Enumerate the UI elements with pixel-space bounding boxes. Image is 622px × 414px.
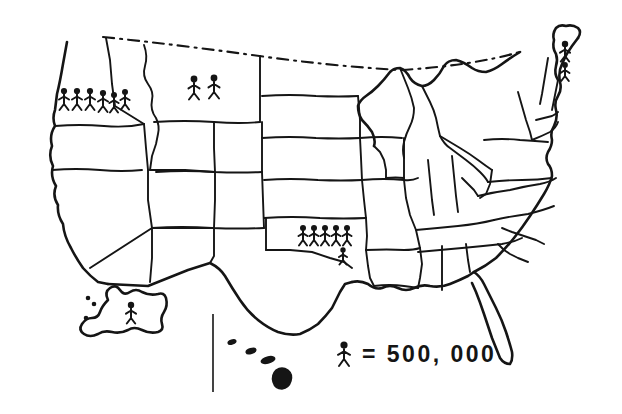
border-wv-oh <box>462 178 478 196</box>
hawaii-island-kauai <box>228 339 237 345</box>
legend-stick-figure <box>338 341 350 366</box>
hawaii-island-bigisland <box>272 368 291 389</box>
aleutian-dot-3 <box>84 316 87 319</box>
border-mo-ar <box>366 248 420 250</box>
border-ok-ar <box>366 218 367 250</box>
border-wa-or <box>55 124 144 127</box>
stick-figure <box>85 88 95 110</box>
border-ma-ct <box>536 112 558 120</box>
legend-value-text: = 500, 000 <box>362 341 496 368</box>
border-ne-ks <box>264 179 362 181</box>
border-ks-mo <box>362 180 366 218</box>
border-tn-south <box>418 238 522 252</box>
border-ks-ok <box>264 217 366 219</box>
figure-group-montana <box>189 75 220 100</box>
border-or-ca <box>52 169 142 171</box>
stick-figure <box>120 89 129 110</box>
border-midwest-south <box>416 220 494 230</box>
border-sd-ne <box>262 137 360 139</box>
stick-figure <box>321 225 330 246</box>
lake-erie-outline <box>440 136 492 170</box>
border-nv-ut-az <box>150 228 152 282</box>
figure-group-alaska <box>126 302 136 324</box>
border-in-oh <box>452 156 458 212</box>
stick-figure <box>299 225 308 246</box>
border-mo-il <box>404 180 420 248</box>
border-ca-nv <box>90 170 152 268</box>
stick-figure <box>72 88 82 110</box>
border-vt-nh <box>540 58 548 104</box>
border-sc-nc <box>502 228 544 244</box>
hawaii-island-oahu <box>246 347 257 355</box>
border-wi-il <box>386 178 404 179</box>
stick-figure <box>189 76 200 100</box>
border-wy-co <box>156 171 262 173</box>
stick-figure <box>109 92 118 113</box>
pacific-coastline <box>50 42 108 284</box>
border-or-id <box>144 124 148 170</box>
border-ny-ne <box>518 92 532 140</box>
aleutian-dot-1 <box>86 296 89 299</box>
stick-figure <box>343 225 352 246</box>
figure-group-oklahoma <box>299 225 352 265</box>
border-pa-md <box>488 178 552 182</box>
border-mn-ia <box>360 137 402 138</box>
stick-figure <box>310 225 319 246</box>
border-nm-tx <box>210 228 214 263</box>
stick-figure <box>209 75 220 99</box>
border-ar-ms <box>418 248 422 288</box>
figure-group-maine <box>560 41 570 81</box>
border-co-ks <box>214 172 215 228</box>
aleutian-dot-2 <box>92 302 95 305</box>
border-ar-la <box>366 250 374 286</box>
border-mn-wi <box>374 146 386 178</box>
border-nc-va <box>494 206 554 220</box>
border-pa-ny <box>484 139 548 142</box>
michigan-mitten <box>422 86 488 182</box>
pictogram-map: = 500, 000 <box>0 0 622 414</box>
border-il-in <box>428 160 434 215</box>
border-wy-sd <box>214 122 215 172</box>
stick-figure <box>59 88 69 110</box>
us-map-drawing <box>0 0 622 414</box>
canada-border-dashed <box>103 37 520 70</box>
hawaii-island-maui <box>260 355 275 365</box>
border-nd-sd <box>262 95 358 97</box>
alaska-outline <box>80 286 166 336</box>
stick-figure <box>126 302 136 324</box>
southern-border <box>108 263 352 335</box>
stick-figure <box>98 90 108 112</box>
border-mt-wy <box>154 121 260 123</box>
stick-figure <box>332 225 341 246</box>
